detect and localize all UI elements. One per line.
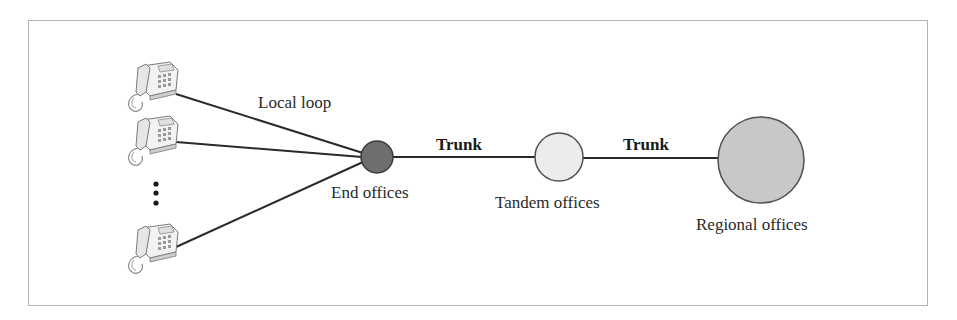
telephone-icon — [129, 62, 178, 111]
end-office-node — [361, 141, 393, 173]
vertical-ellipsis-icon — [153, 181, 158, 205]
telephone-network-diagram: Local loop Trunk Trunk End offices Tande… — [0, 0, 957, 320]
regional-office-node — [718, 117, 804, 203]
regional-offices-label: Regional offices — [696, 215, 808, 234]
telephone-icon — [129, 224, 178, 273]
local-loop-line-3 — [176, 162, 363, 247]
trunk-label-2: Trunk — [623, 135, 670, 154]
tandem-offices-label: Tandem offices — [495, 193, 600, 212]
tandem-office-node — [535, 133, 583, 181]
end-offices-label: End offices — [331, 183, 409, 202]
telephone-icon — [129, 116, 178, 165]
trunk-label-1: Trunk — [436, 135, 483, 154]
local-loop-label: Local loop — [258, 93, 331, 112]
